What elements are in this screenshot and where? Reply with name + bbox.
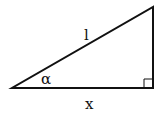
hypotenuse-label: l <box>84 26 89 44</box>
right-triangle <box>12 7 153 88</box>
triangle-diagram: l α x <box>0 0 163 115</box>
right-angle-marker <box>144 79 153 88</box>
angle-label: α <box>41 70 51 88</box>
base-label: x <box>85 95 94 113</box>
